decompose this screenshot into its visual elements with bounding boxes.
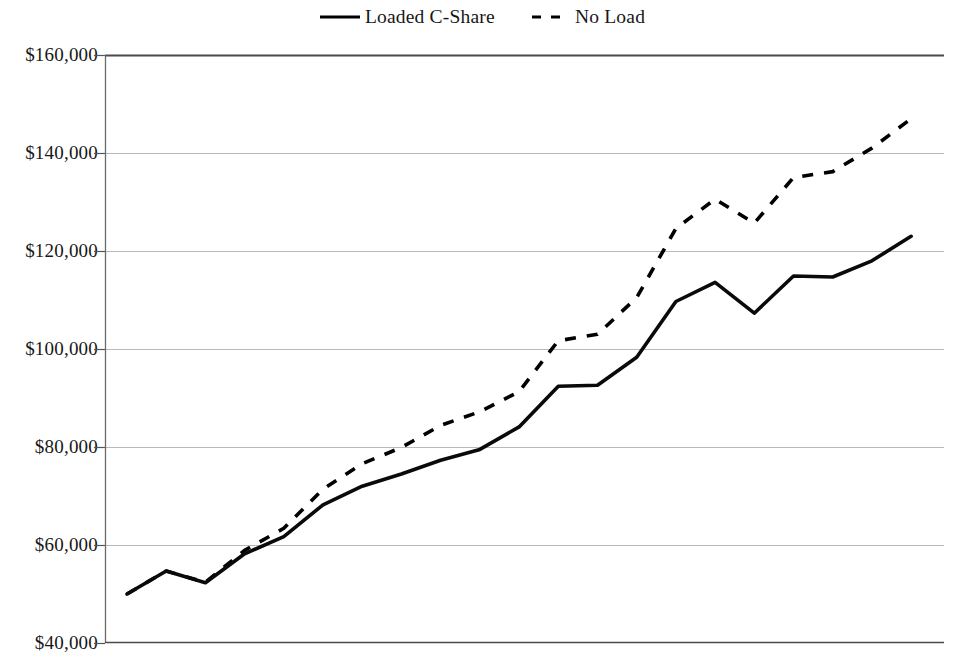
line-chart: Loaded C-Share No Load $160,000 $140,000… [0, 0, 964, 653]
gridlines [105, 56, 944, 546]
plot-area [0, 0, 964, 653]
y-axis-tick-marks [94, 56, 105, 644]
series-line-loaded-c-share [127, 236, 911, 594]
series-line-no-load [127, 119, 911, 594]
